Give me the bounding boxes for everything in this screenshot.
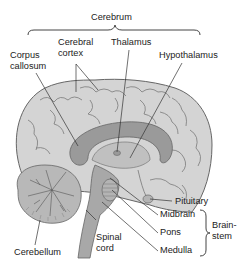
label-cerebral-cortex-2: cortex [58, 48, 83, 58]
label-cerebellum: Cerebellum [14, 247, 61, 257]
cerebrum-brace [28, 25, 200, 35]
brainstem-brace [200, 210, 210, 256]
label-spinal-cord-2: cord [96, 243, 114, 253]
brain-diagram: Cerebrum Cerebral cortex Thalamus Corpus… [0, 0, 247, 266]
label-spinal-cord-1: Spinal [96, 232, 122, 242]
label-brainstem-2: stem [212, 231, 232, 241]
label-pons: Pons [160, 227, 181, 237]
label-hypothalamus: Hypothalamus [159, 50, 218, 60]
label-corpus-callosum-2: callosum [10, 61, 46, 71]
label-medulla: Medulla [160, 245, 192, 255]
label-thalamus: Thalamus [111, 37, 151, 47]
label-pituitary: Pituitary [175, 196, 208, 206]
label-cerebrum: Cerebrum [91, 12, 132, 22]
label-brainstem-1: Brain- [212, 220, 237, 230]
label-midbrain: Midbrain [160, 209, 195, 219]
label-corpus-callosum-1: Corpus [10, 50, 40, 60]
label-cerebral-cortex-1: Cerebral [58, 37, 93, 47]
